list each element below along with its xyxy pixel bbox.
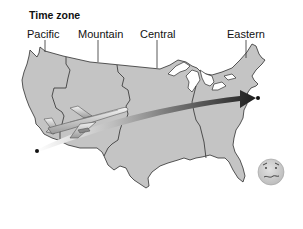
destination-dot bbox=[256, 96, 260, 100]
time-zone-diagram: Time zone Pacific Mountain Central Easte… bbox=[0, 0, 303, 229]
zone-label-central: Central bbox=[140, 28, 175, 40]
zone-label-mountain: Mountain bbox=[78, 28, 123, 40]
queasy-face-icon bbox=[258, 159, 284, 185]
zone-label-pacific: Pacific bbox=[27, 28, 59, 40]
origin-dot bbox=[35, 149, 39, 153]
diagram-title: Time zone bbox=[29, 9, 80, 21]
zone-label-eastern: Eastern bbox=[227, 28, 265, 40]
